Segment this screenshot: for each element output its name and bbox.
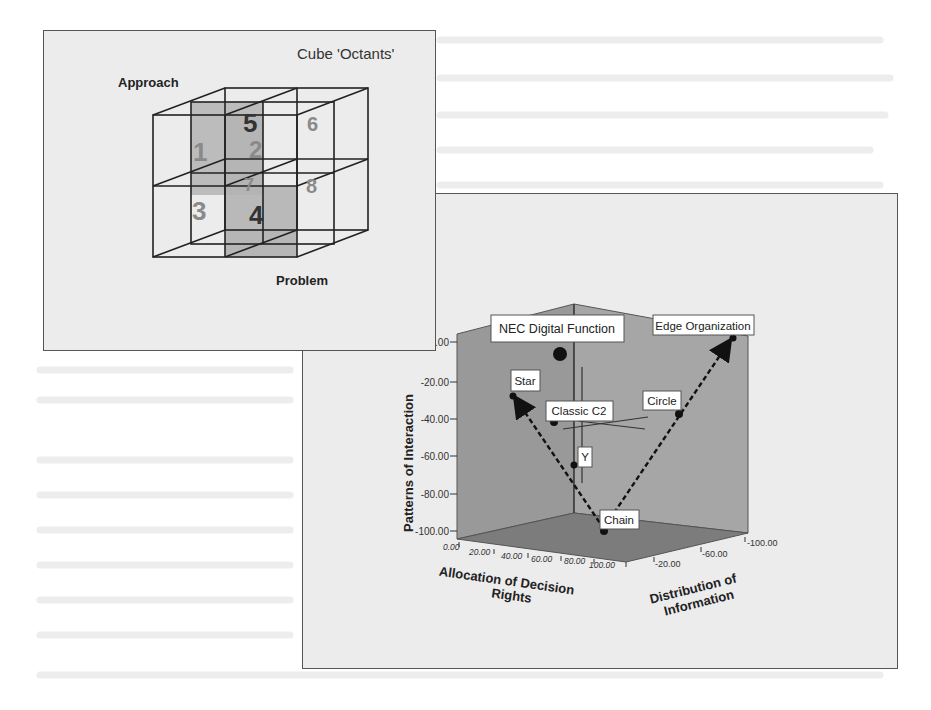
label-circle: Circle (647, 395, 676, 407)
octant-6: 6 (307, 113, 318, 135)
point-star (510, 393, 517, 400)
y-tick-1: -60.00 (702, 549, 728, 559)
label-edge-organization: Edge Organization (655, 320, 750, 332)
x-tick-1: 20.00 (468, 547, 491, 557)
x-tick-2: 40.00 (501, 551, 523, 561)
octant-3: 3 (192, 196, 206, 226)
x-tick-3: 60.00 (531, 554, 553, 564)
label-star: Star (514, 375, 535, 387)
octant-5: 5 (243, 108, 257, 138)
x-tick-4: 80.00 (564, 556, 586, 566)
label-nec-digital-function: NEC Digital Function (499, 322, 615, 336)
x-tick-0: 0.00 (443, 542, 460, 552)
octant-7: 7 (244, 175, 254, 195)
z-tick-4: -80.00 (421, 489, 450, 500)
z-tick-3: -60.00 (421, 451, 450, 462)
problem-label: Problem (276, 273, 328, 288)
label-classic-c2: Classic C2 (552, 405, 607, 417)
octant-8: 8 (306, 175, 317, 197)
cube-octants-panel: 1 2 3 4 5 6 7 8 Cube 'Octants' Approach … (43, 30, 436, 351)
x-tick-5: 100.00 (589, 560, 615, 570)
z-tick-2: -40.00 (421, 414, 450, 425)
z-tick-5: -100.00 (415, 526, 449, 537)
z-tick-0: .00 (435, 337, 449, 348)
point-circle (675, 410, 683, 418)
z-axis-ticks (450, 342, 457, 531)
point-nec-digital-function (553, 347, 567, 361)
y-tick-0: -20.00 (655, 559, 681, 569)
label-chain: Chain (604, 514, 634, 526)
z-tick-1: -20.00 (421, 377, 450, 388)
point-edge-organization (730, 335, 737, 342)
cube-octants-diagram: 1 2 3 4 5 6 7 8 Cube 'Octants' Approach … (44, 31, 437, 352)
cube-title: Cube 'Octants' (297, 45, 395, 62)
z-axis-label: Patterns of Interaction (401, 394, 416, 532)
octant-1: 1 (193, 137, 207, 167)
y-tick-2: -100.00 (747, 538, 778, 548)
label-y: Y (581, 451, 589, 463)
octant-2: 2 (249, 136, 262, 163)
approach-label: Approach (118, 75, 179, 90)
point-y (571, 462, 578, 469)
octant-4: 4 (249, 200, 264, 230)
